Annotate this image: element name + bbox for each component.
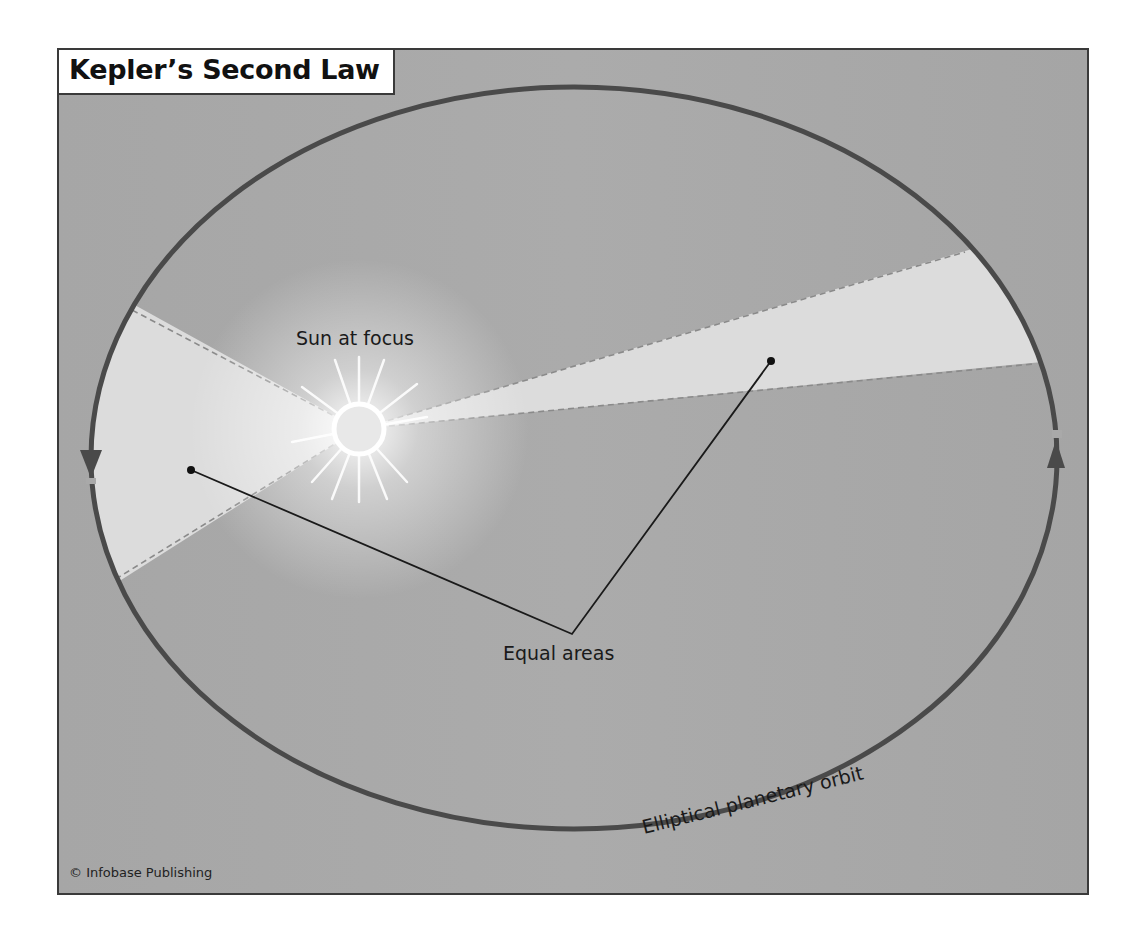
credit-text: © Infobase Publishing <box>69 865 212 880</box>
sun-label: Sun at focus <box>296 327 414 349</box>
diagram-frame: Elliptical planetary orbit Kepler’s Seco… <box>57 48 1089 895</box>
sun-disk <box>334 404 384 454</box>
title-box: Kepler’s Second Law <box>59 50 395 95</box>
leader-dot-right <box>767 357 775 365</box>
equal-areas-label: Equal areas <box>503 642 614 664</box>
leader-dot-left <box>187 466 195 474</box>
diagram-canvas: Elliptical planetary orbit <box>59 50 1087 893</box>
page-title: Kepler’s Second Law <box>69 54 380 85</box>
